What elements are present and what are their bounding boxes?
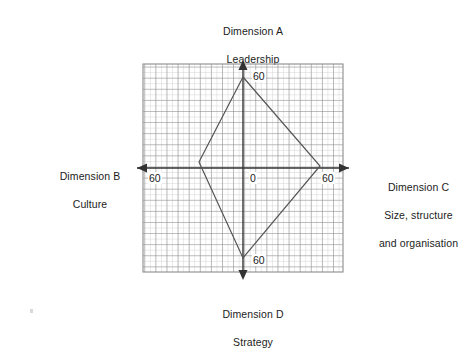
arrow-right-icon [339, 164, 349, 173]
tick-label-bottom: 60 [252, 254, 266, 266]
arrow-left-icon [137, 164, 147, 173]
arrow-down-icon [239, 270, 248, 280]
tick-label-left: 60 [148, 172, 162, 184]
tick-label-right: 60 [321, 172, 335, 184]
stray-mark [30, 309, 33, 313]
tick-label-top: 60 [252, 70, 266, 82]
tick-label-origin: 0 [249, 172, 257, 184]
